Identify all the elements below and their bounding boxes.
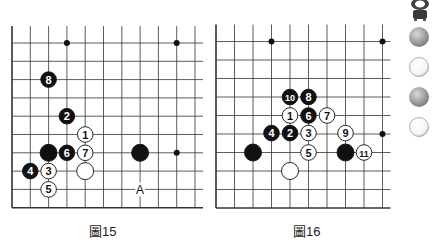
figure-caption-15: 圖15 (89, 221, 116, 240)
move-number: 10 (285, 93, 295, 103)
mascot-icon (411, 0, 429, 21)
star-point (269, 39, 275, 45)
white-stone: 7 (77, 145, 93, 161)
gray-stone-icon (409, 87, 429, 107)
white-stone-icon (410, 58, 429, 77)
white-stone (282, 163, 299, 180)
gray-stone-icon (409, 27, 429, 47)
black-stone: 6 (301, 108, 317, 124)
go-board-figure-16: 1081674239511 (216, 25, 391, 209)
white-stone: 1 (77, 127, 93, 143)
white-stone: 7 (319, 108, 335, 124)
white-stone: 3 (41, 163, 57, 179)
star-point (174, 40, 180, 46)
white-stone: 5 (301, 145, 317, 161)
move-number: 8 (46, 74, 52, 86)
move-number: 11 (359, 149, 369, 159)
move-number: 2 (287, 127, 293, 139)
move-number: 3 (46, 165, 52, 177)
white-stone (77, 163, 94, 180)
star-point (174, 150, 180, 156)
move-number: 2 (64, 110, 70, 122)
move-number: 6 (64, 147, 70, 159)
black-stone: 8 (41, 72, 57, 88)
star-point (64, 40, 70, 46)
move-number: 4 (268, 127, 275, 139)
white-stone-icon (410, 118, 429, 137)
star-point (380, 39, 386, 45)
white-stone: 11 (356, 145, 372, 161)
go-diagrams-canvas: 82167435A 1081674239511 (0, 0, 432, 244)
white-stone: 1 (282, 108, 298, 124)
black-stone (245, 144, 262, 161)
black-stone: 2 (59, 108, 75, 124)
move-number: 3 (305, 127, 311, 139)
black-stone: 4 (264, 125, 280, 141)
move-number: 1 (82, 129, 88, 141)
move-number: 5 (305, 147, 311, 159)
point-label: A (136, 183, 144, 197)
white-stone: 9 (338, 125, 354, 141)
move-number: 7 (324, 110, 330, 122)
go-board-figure-15: 82167435A (12, 26, 203, 208)
black-stone: 4 (23, 163, 39, 179)
move-number: 7 (82, 147, 88, 159)
move-number: 1 (287, 110, 293, 122)
white-stone: 5 (41, 182, 57, 198)
move-number: 5 (46, 183, 52, 195)
black-stone (337, 144, 354, 161)
move-number: 6 (305, 110, 311, 122)
move-number: 9 (342, 127, 348, 139)
white-stone: 3 (301, 125, 317, 141)
black-stone: 2 (282, 125, 298, 141)
sidebar-stone-icons (409, 0, 429, 137)
black-stone: 6 (59, 145, 75, 161)
move-number: 8 (305, 91, 311, 103)
star-point (380, 131, 386, 137)
black-stone (132, 144, 149, 161)
black-stone: 10 (282, 89, 298, 105)
black-stone (40, 144, 57, 161)
figure-caption-16: 圖16 (293, 221, 320, 240)
move-number: 4 (27, 165, 34, 177)
black-stone: 8 (301, 89, 317, 105)
